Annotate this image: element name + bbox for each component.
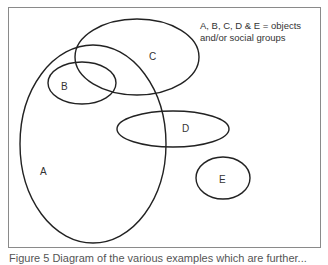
set-c-ellipse [75, 19, 199, 95]
figure-caption: Figure 5 Diagram of the various examples… [9, 252, 307, 264]
legend-line-1: A, B, C, D & E = objects [200, 20, 301, 32]
set-a-label: A [40, 166, 47, 177]
set-b-label: B [61, 81, 68, 92]
legend: A, B, C, D & E = objects and/or social g… [200, 20, 301, 44]
set-c-label: C [149, 51, 156, 62]
set-d-label: D [182, 123, 189, 134]
set-d-ellipse [117, 111, 229, 147]
set-e-label: E [219, 174, 226, 185]
legend-line-2: and/or social groups [200, 32, 301, 44]
set-b-ellipse [48, 62, 116, 104]
